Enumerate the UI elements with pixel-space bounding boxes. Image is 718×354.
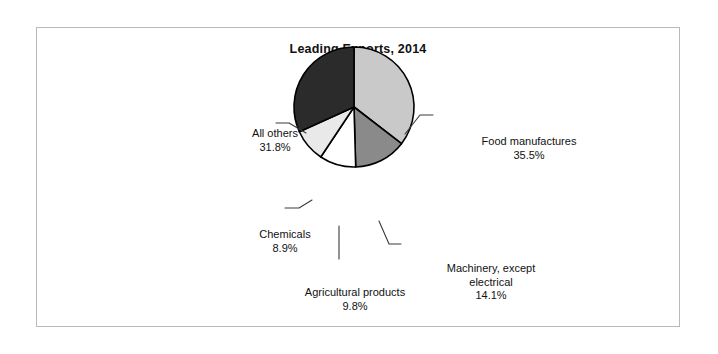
pie-label-machinery-except-electrical: Machinery, except electrical 14.1% — [422, 262, 560, 303]
figure-frame: Leading Exports, 2014 All others 31.8% — [36, 27, 680, 327]
pie-label-machinery-name-line1: Machinery, except — [422, 262, 560, 276]
pie-label-machinery-value: 14.1% — [422, 289, 560, 303]
pie-label-all-others: All others 31.8% — [223, 127, 327, 154]
pie-label-agricultural-products-name: Agricultural products — [285, 286, 425, 300]
leader-line-machinery — [379, 221, 401, 244]
pie-label-chemicals-name: Chemicals — [239, 228, 331, 242]
pie-label-food-manufactures-value: 35.5% — [459, 149, 599, 163]
leader-line-chemicals — [285, 200, 312, 208]
pie-chart — [37, 28, 679, 326]
pie-label-agricultural-products-value: 9.8% — [285, 300, 425, 314]
pie-label-all-others-name: All others — [223, 127, 327, 141]
pie-label-all-others-value: 31.8% — [223, 141, 327, 155]
pie-label-agricultural-products: Agricultural products 9.8% — [285, 286, 425, 313]
pie-label-chemicals-value: 8.9% — [239, 242, 331, 256]
pie-label-chemicals: Chemicals 8.9% — [239, 228, 331, 255]
pie-label-machinery-name-line2: electrical — [422, 276, 560, 290]
pie-label-food-manufactures-name: Food manufactures — [459, 135, 599, 149]
figure-root: Leading Exports, 2014 All others 31.8% — [0, 0, 718, 354]
pie-label-food-manufactures: Food manufactures 35.5% — [459, 135, 599, 162]
